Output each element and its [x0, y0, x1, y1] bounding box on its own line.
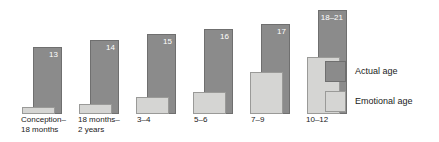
category-label: Conception– 18 months — [21, 115, 66, 134]
bar-emotional-age[interactable] — [136, 97, 169, 114]
chart-legend: Actual age Emotional age — [325, 58, 433, 118]
bar-emotional-age[interactable] — [193, 92, 226, 114]
legend-item-actual-age[interactable]: Actual age — [325, 58, 433, 84]
bar-group: 13 Conception– 18 months — [20, 0, 77, 142]
plot-area: 13 Conception– 18 months 14 18 months– 2… — [0, 0, 330, 142]
bar-group: 15 3–4 — [134, 0, 191, 142]
bar-value-label: 14 — [106, 43, 115, 52]
bar-value-label: 18–21 — [321, 13, 343, 22]
bar-group: 16 5–6 — [191, 0, 248, 142]
bar-emotional-age[interactable] — [79, 104, 112, 114]
bar-group: 17 7–9 — [248, 0, 305, 142]
legend-swatch-icon-actual-age — [325, 61, 346, 82]
category-label: 7–9 — [251, 115, 264, 125]
bar-emotional-age[interactable] — [250, 72, 283, 114]
bar-actual-age[interactable]: 14 — [90, 40, 119, 114]
legend-item-emotional-age[interactable]: Emotional age — [325, 88, 433, 114]
legend-swatch-icon-emotional-age — [325, 91, 346, 112]
bar-value-label: 15 — [163, 37, 172, 46]
category-label: 5–6 — [194, 115, 207, 125]
bar-group: 14 18 months– 2 years — [77, 0, 134, 142]
bar-value-label: 16 — [220, 32, 229, 41]
bar-chart-figure: 13 Conception– 18 months 14 18 months– 2… — [0, 0, 439, 142]
category-label: 18 months– 2 years — [78, 115, 120, 134]
legend-label: Emotional age — [355, 96, 413, 106]
bar-emotional-age[interactable] — [22, 107, 55, 114]
bar-value-label: 17 — [277, 27, 286, 36]
category-label: 3–4 — [137, 115, 150, 125]
bar-actual-age[interactable]: 13 — [33, 47, 62, 114]
legend-label: Actual age — [355, 66, 398, 76]
bar-value-label: 13 — [49, 50, 58, 59]
